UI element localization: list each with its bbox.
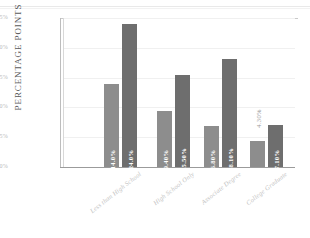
bar-group: 6.80%18.10% <box>204 18 238 167</box>
bars-container: 14.0%24.0%9.40%15.50%6.80%18.10%4.30%7.1… <box>64 18 295 167</box>
bar-value-label: 24.0% <box>126 150 133 169</box>
y-axis-tick-label: 25% <box>0 14 8 20</box>
y-axis-tick-label: 0% <box>0 163 8 169</box>
y-axis-tick-label: 5% <box>0 133 8 139</box>
bar-value-label: 6.80% <box>208 150 215 169</box>
bar-value-label: 4.30% <box>254 110 261 128</box>
y-axis-tick-label: 10% <box>0 103 8 109</box>
bar: 7.10% <box>268 125 283 167</box>
y-axis-title: PERCENTAGE POINTS <box>13 0 23 117</box>
scan-artifact-line <box>0 6 310 7</box>
x-axis-category-label: High School Only <box>152 170 196 206</box>
x-axis-category-label: Associate Degree <box>200 170 243 205</box>
bar-group: 14.0%24.0% <box>104 18 138 167</box>
bar: 4.30% <box>250 141 265 167</box>
bar-chart: PERCENTAGE POINTS 25%20%15%10%5%0% 14.0%… <box>0 0 310 238</box>
bar-value-label: 7.10% <box>272 150 279 169</box>
x-axis-line <box>60 167 295 168</box>
bar-value-label: 15.50% <box>179 148 186 171</box>
bar-value-label: 9.40% <box>161 150 168 169</box>
y-axis-tick-label: 20% <box>0 44 8 50</box>
bar: 24.0% <box>122 24 137 167</box>
bar-value-label: 14.0% <box>108 150 115 169</box>
bar-group: 4.30%7.10% <box>250 18 284 167</box>
bar-value-label: 18.10% <box>226 148 233 171</box>
bar-group: 9.40%15.50% <box>157 18 191 167</box>
scan-artifact-line-secondary <box>0 8 310 9</box>
x-axis-category-labels: Less than High SchoolHigh School OnlyAss… <box>60 170 310 230</box>
bar: 15.50% <box>175 75 190 167</box>
x-axis-category-label: College Graduate <box>245 170 289 206</box>
bar: 18.10% <box>222 59 237 167</box>
bar: 6.80% <box>204 126 219 167</box>
y-axis-line <box>60 18 61 168</box>
bar: 9.40% <box>157 111 172 167</box>
x-axis-category-label: Less than High School <box>88 170 142 214</box>
y-axis-tick-label: 15% <box>0 74 8 80</box>
plot-area: 14.0%24.0%9.40%15.50%6.80%18.10%4.30%7.1… <box>60 18 295 168</box>
bar: 14.0% <box>104 84 119 167</box>
